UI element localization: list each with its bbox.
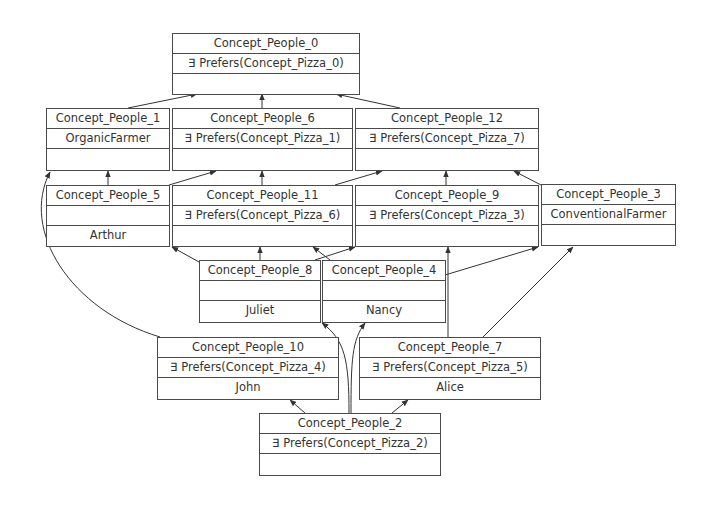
node-attributes: ∃ Prefers(Concept_Pizza_4) bbox=[158, 358, 338, 378]
concept-node-c4[interactable]: Concept_People_4 Nancy bbox=[322, 260, 446, 323]
edge-c3-c12 bbox=[514, 171, 541, 185]
concept-node-c7[interactable]: Concept_People_7 ∃ Prefers(Concept_Pizza… bbox=[359, 337, 541, 400]
concept-node-c0[interactable]: Concept_People_0 ∃ Prefers(Concept_Pizza… bbox=[172, 33, 360, 95]
edge-c7-c3 bbox=[483, 247, 573, 337]
node-title: Concept_People_2 bbox=[260, 414, 440, 434]
node-attributes bbox=[323, 281, 445, 301]
node-attributes: ∃ Prefers(Concept_Pizza_3) bbox=[356, 206, 538, 226]
node-objects bbox=[356, 226, 538, 247]
edge-c4-c3 bbox=[445, 247, 538, 275]
concept-lattice-diagram: Concept_People_0 ∃ Prefers(Concept_Pizza… bbox=[0, 0, 707, 506]
node-attributes: ∃ Prefers(Concept_Pizza_6) bbox=[173, 206, 352, 226]
concept-node-c10[interactable]: Concept_People_10 ∃ Prefers(Concept_Pizz… bbox=[157, 337, 339, 400]
node-objects bbox=[260, 454, 440, 475]
concept-node-c6[interactable]: Concept_People_6 ∃ Prefers(Concept_Pizza… bbox=[172, 108, 353, 171]
edge-c8-c5 bbox=[172, 247, 199, 262]
node-title: Concept_People_1 bbox=[47, 109, 169, 129]
edge-c12-c0 bbox=[336, 94, 400, 108]
node-attributes: ∃ Prefers(Concept_Pizza_5) bbox=[360, 358, 540, 378]
node-attributes bbox=[200, 281, 320, 301]
edge-c4-c11 bbox=[313, 247, 330, 260]
node-objects bbox=[173, 226, 352, 247]
node-attributes: ∃ Prefers(Concept_Pizza_0) bbox=[173, 54, 359, 74]
concept-node-c11[interactable]: Concept_People_11 ∃ Prefers(Concept_Pizz… bbox=[172, 185, 353, 247]
node-attributes: ConventionalFarmer bbox=[542, 205, 675, 225]
concept-node-c5[interactable]: Concept_People_5 Arthur bbox=[46, 185, 170, 247]
concept-node-c9[interactable]: Concept_People_9 ∃ Prefers(Concept_Pizza… bbox=[355, 185, 539, 247]
node-attributes bbox=[47, 206, 169, 226]
concept-node-c3[interactable]: Concept_People_3 ConventionalFarmer bbox=[541, 184, 676, 246]
node-objects bbox=[356, 149, 538, 170]
edge-c2-c10 bbox=[290, 400, 305, 413]
node-objects: Juliet bbox=[200, 301, 320, 322]
node-attributes: ∃ Prefers(Concept_Pizza_2) bbox=[260, 434, 440, 454]
edge-c1-c0 bbox=[128, 94, 197, 108]
node-objects bbox=[173, 149, 352, 170]
concept-node-c1[interactable]: Concept_People_1 OrganicFarmer bbox=[46, 108, 170, 171]
node-attributes: ∃ Prefers(Concept_Pizza_1) bbox=[173, 129, 352, 149]
concept-node-c8[interactable]: Concept_People_8 Juliet bbox=[199, 260, 321, 323]
node-attributes: OrganicFarmer bbox=[47, 129, 169, 149]
node-title: Concept_People_0 bbox=[173, 34, 359, 54]
node-title: Concept_People_6 bbox=[173, 109, 352, 129]
node-objects: Nancy bbox=[323, 301, 445, 322]
edge-c5-c6 bbox=[169, 171, 216, 185]
node-title: Concept_People_4 bbox=[323, 261, 445, 281]
node-title: Concept_People_8 bbox=[200, 261, 320, 281]
concept-node-c2[interactable]: Concept_People_2 ∃ Prefers(Concept_Pizza… bbox=[259, 413, 441, 476]
node-objects: Arthur bbox=[47, 226, 169, 247]
node-title: Concept_People_7 bbox=[360, 338, 540, 358]
node-title: Concept_People_11 bbox=[173, 186, 352, 206]
node-title: Concept_People_12 bbox=[356, 109, 538, 129]
node-title: Concept_People_3 bbox=[542, 185, 675, 205]
node-objects bbox=[542, 225, 675, 246]
edge-c11-c12 bbox=[335, 171, 382, 185]
concept-node-c12[interactable]: Concept_People_12 ∃ Prefers(Concept_Pizz… bbox=[355, 108, 539, 171]
edge-c8-c9 bbox=[315, 247, 355, 260]
node-title: Concept_People_10 bbox=[158, 338, 338, 358]
node-title: Concept_People_5 bbox=[47, 186, 169, 206]
node-attributes: ∃ Prefers(Concept_Pizza_7) bbox=[356, 129, 538, 149]
node-objects: Alice bbox=[360, 378, 540, 399]
edge-c2-c7 bbox=[392, 400, 408, 413]
node-objects: John bbox=[158, 378, 338, 399]
node-objects bbox=[47, 149, 169, 170]
node-title: Concept_People_9 bbox=[356, 186, 538, 206]
node-objects bbox=[173, 74, 359, 95]
